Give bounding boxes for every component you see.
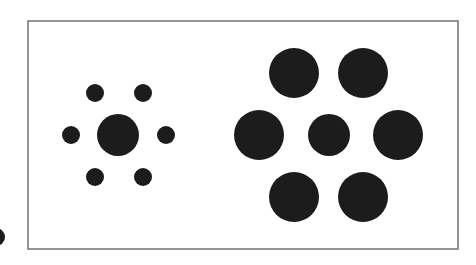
left-surround-circle: [134, 168, 152, 186]
right-surround-circle: [338, 172, 388, 222]
ebbinghaus-figure: [0, 0, 476, 265]
left-surround-circle: [86, 168, 104, 186]
left-cluster-small-surround: [62, 84, 175, 186]
left-surround-circle: [86, 84, 104, 102]
left-surround-circle: [62, 126, 80, 144]
right-center-circle: [308, 114, 350, 156]
right-surround-circle: [269, 172, 319, 222]
left-surround-circle: [134, 84, 152, 102]
edge-circle-fragment: [0, 228, 5, 246]
right-cluster-large-surround: [234, 48, 423, 222]
left-surround-circle: [157, 126, 175, 144]
right-surround-circle: [338, 48, 388, 98]
right-surround-circle: [269, 48, 319, 98]
right-surround-circle: [373, 110, 423, 160]
left-center-circle: [97, 114, 139, 156]
right-surround-circle: [234, 110, 284, 160]
